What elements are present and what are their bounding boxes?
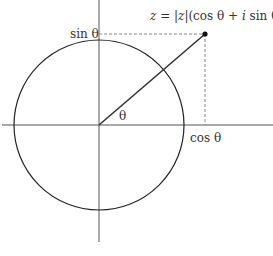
- angle-label: θ: [119, 109, 126, 123]
- point-z: [202, 31, 207, 36]
- cos-label: cos θ: [190, 131, 221, 145]
- formula-label: z = |z|(cos θ + i sin θ): [149, 9, 273, 23]
- complex-plane-diagram: z = |z|(cos θ + i sin θ) sin θ cos θ θ: [0, 0, 273, 256]
- radius-vector: [99, 34, 205, 125]
- sin-label: sin θ: [70, 27, 99, 41]
